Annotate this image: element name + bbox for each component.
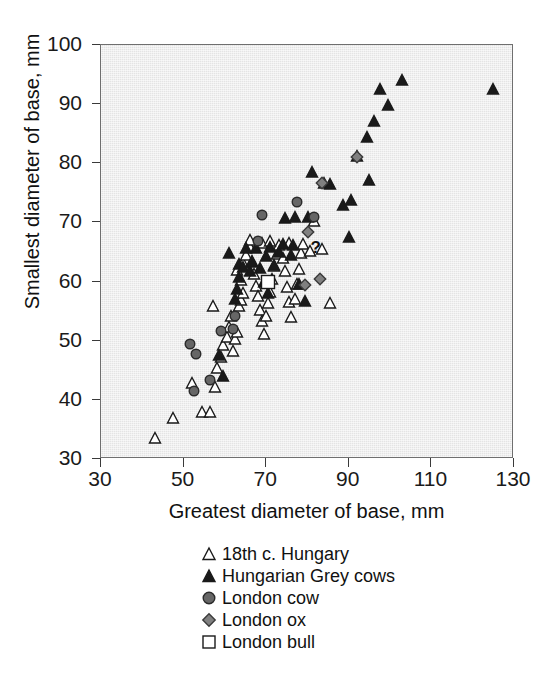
data-point: [256, 209, 268, 221]
data-point: [396, 74, 409, 87]
x-tick-mark: [183, 458, 184, 467]
data-point: [301, 226, 314, 239]
data-point: [293, 263, 306, 276]
x-tick-mark: [100, 458, 101, 467]
data-point: [291, 196, 303, 208]
data-point: [261, 275, 276, 290]
data-point: [184, 338, 196, 350]
plot-area: ?: [100, 44, 513, 458]
data-point: [342, 231, 355, 244]
data-point: [148, 431, 161, 444]
data-point: [315, 176, 328, 189]
data-point: [363, 174, 376, 187]
data-point: [216, 370, 229, 383]
data-point: [188, 385, 200, 397]
data-point: [204, 405, 217, 418]
scatter-plot-figure: Smallest diameter of base, mm 1009080706…: [0, 0, 555, 679]
y-tick-label: 70: [36, 210, 82, 231]
x-tick-mark: [513, 458, 514, 467]
data-point: [227, 345, 240, 358]
legend-label: London ox: [222, 611, 306, 629]
legend-label: London bull: [222, 633, 315, 651]
data-point: [373, 82, 386, 95]
data-point: [231, 282, 244, 295]
legend-marker-icon: [196, 547, 222, 561]
y-tick-label: 40: [36, 388, 82, 409]
x-tick-mark: [265, 458, 266, 467]
legend-label: London cow: [222, 589, 319, 607]
legend-marker-icon: [196, 591, 222, 605]
data-point: [215, 325, 227, 337]
data-point: [344, 193, 357, 206]
x-tick-label: 70: [235, 468, 295, 489]
data-point: [308, 211, 320, 223]
legend-marker-icon: [196, 613, 222, 627]
data-point: [289, 210, 302, 223]
data-point: [299, 295, 312, 308]
x-tick-mark: [348, 458, 349, 467]
legend-item-4[interactable]: London bull: [196, 631, 395, 652]
data-point: [212, 348, 225, 361]
data-point: [284, 311, 297, 324]
y-tick-label: 30: [36, 447, 82, 468]
y-tick-label: 90: [36, 92, 82, 113]
y-tick-label: 50: [36, 329, 82, 350]
legend-item-3[interactable]: London ox: [196, 609, 395, 630]
data-point: [229, 310, 241, 322]
annotation-question-mark: ?: [311, 238, 321, 258]
data-point: [299, 278, 312, 291]
x-tick-label: 130: [483, 468, 543, 489]
x-tick-label: 110: [400, 468, 460, 489]
legend-label: Hungarian Grey cows: [222, 567, 395, 585]
data-point: [361, 131, 374, 144]
data-point: [167, 411, 180, 424]
data-point: [254, 261, 267, 274]
legend-item-0[interactable]: 18th c. Hungary: [196, 543, 395, 564]
y-tick-label: 60: [36, 270, 82, 291]
data-point: [313, 272, 326, 285]
x-tick-label: 50: [153, 468, 213, 489]
y-tick-label: 100: [36, 33, 82, 54]
x-tick-label: 30: [70, 468, 130, 489]
x-tick-mark: [430, 458, 431, 467]
data-point: [287, 238, 300, 251]
data-point: [204, 374, 216, 386]
legend-marker-icon: [196, 569, 222, 583]
data-point: [324, 297, 337, 310]
data-point: [206, 300, 219, 313]
x-axis-label: Greatest diameter of base, mm: [100, 500, 513, 523]
legend-item-1[interactable]: Hungarian Grey cows: [196, 565, 395, 586]
data-point: [487, 82, 500, 95]
data-point: [268, 259, 281, 272]
x-tick-label: 90: [318, 468, 378, 489]
legend-label: 18th c. Hungary: [222, 545, 349, 563]
y-tick-label: 80: [36, 151, 82, 172]
data-point: [382, 98, 395, 111]
legend-marker-icon: [196, 635, 222, 649]
data-point: [260, 309, 273, 322]
data-point: [258, 327, 271, 340]
legend-item-2[interactable]: London cow: [196, 587, 395, 608]
data-point: [252, 235, 264, 247]
chart-legend: 18th c. HungaryHungarian Grey cowsLondon…: [196, 543, 395, 653]
data-point: [367, 115, 380, 128]
data-point: [227, 323, 239, 335]
data-point: [351, 150, 364, 163]
